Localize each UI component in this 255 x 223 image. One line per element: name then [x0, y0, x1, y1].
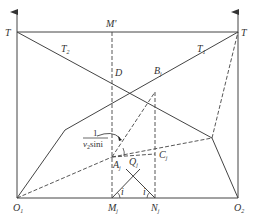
label-angle-i-right: i	[143, 186, 146, 197]
label-m: Mj	[107, 202, 118, 214]
label-t2: T2	[61, 43, 70, 55]
label-c: Cj	[159, 149, 168, 161]
fraction-denominator: v2sini	[83, 139, 104, 150]
dashed-t2-kink-to-t	[212, 32, 238, 138]
label-m-prime: M'	[105, 18, 117, 29]
label-b: Bj	[154, 65, 162, 77]
label-t1: T1	[197, 43, 206, 55]
refraction-time-distance-diagram: T T M' T2 T1 D Bj Aj Cj Qj O1 O2 Mj Nj i…	[0, 0, 255, 223]
angle-arc-n	[147, 193, 150, 199]
t1-traveltime-curve	[17, 32, 238, 198]
angle-arc-a	[123, 148, 124, 156]
label-angle-i-left: i	[121, 186, 124, 197]
t2-traveltime-curve	[17, 32, 238, 198]
ray-m-to-q	[112, 169, 140, 198]
label-q: Qj	[129, 156, 138, 168]
label-t-right: T	[241, 27, 248, 38]
slope-arc-arrow	[97, 133, 120, 138]
label-t-left: T	[5, 27, 12, 38]
label-o2: O2	[234, 202, 244, 214]
angle-arc-m	[118, 193, 121, 199]
dashed-a-to-b	[112, 92, 155, 157]
slope-arrow-head	[118, 136, 122, 141]
fraction-numerator: 1	[93, 128, 98, 138]
label-d: D	[114, 67, 123, 78]
label-o1: O1	[13, 202, 23, 214]
label-a: Aj	[112, 159, 121, 171]
ray-n-to-q	[126, 169, 155, 198]
label-n: Nj	[150, 202, 160, 214]
